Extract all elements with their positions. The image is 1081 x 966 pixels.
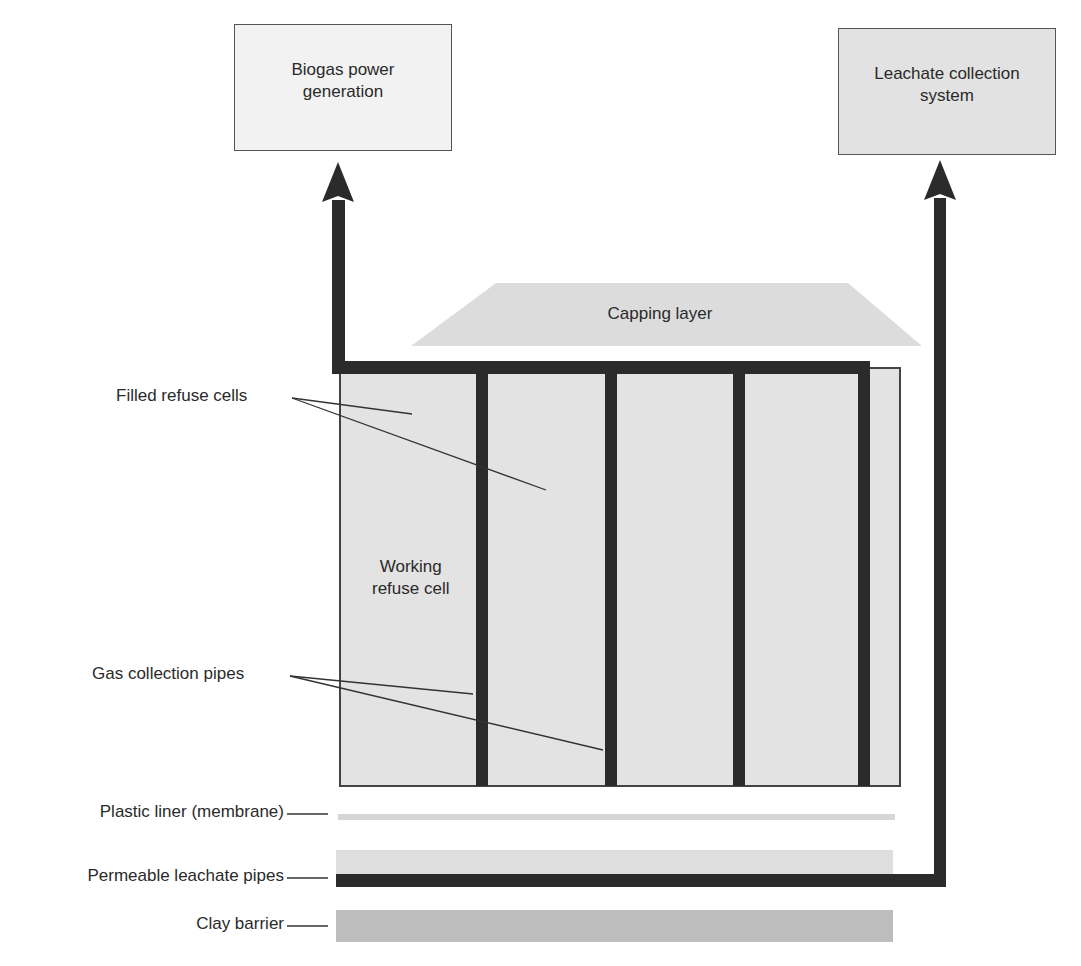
biogas-box-line1: Biogas power	[291, 59, 394, 81]
filled-refuse-cells-label: Filled refuse cells	[116, 386, 247, 406]
gas-pipe-2	[605, 365, 617, 786]
capping-layer-label: Capping layer	[560, 304, 760, 324]
arrow-up-icon	[924, 160, 956, 200]
working-cell-line1: Working	[372, 556, 449, 578]
leachate-pipe	[336, 874, 946, 887]
leachate-box-line1: Leachate collection	[874, 63, 1020, 85]
arrow-up-icon	[322, 162, 354, 202]
biogas-box-line2: generation	[291, 81, 394, 103]
working-cell-line2: refuse cell	[372, 578, 449, 600]
gas-header-pipe	[332, 361, 870, 374]
leachate-box-line2: system	[874, 85, 1020, 107]
gas-riser-pipe	[332, 200, 345, 374]
leachate-collection-system-box: Leachate collection system	[838, 28, 1056, 155]
drainage-layer	[336, 850, 893, 874]
gas-pipe-4	[858, 365, 870, 786]
plastic-liner-label: Plastic liner (membrane)	[100, 802, 284, 822]
gas-collection-pipes-label: Gas collection pipes	[92, 664, 244, 684]
biogas-power-generation-box: Biogas power generation	[234, 24, 452, 151]
clay-barrier	[336, 910, 893, 942]
permeable-leachate-pipes-label: Permeable leachate pipes	[87, 866, 284, 886]
working-refuse-cell-label: Working refuse cell	[372, 556, 449, 600]
gas-pipe-3	[733, 365, 745, 786]
plastic-liner	[338, 814, 895, 820]
clay-barrier-label: Clay barrier	[196, 914, 284, 934]
leachate-riser-pipe	[934, 198, 946, 887]
